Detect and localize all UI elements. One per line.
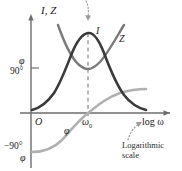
x-axis-label: log ω [142,117,164,127]
x-axis [20,110,170,115]
curve-label-phase: φ [64,126,70,136]
y-tick-label-phi-bottom: φ [20,153,26,163]
resonance-pointer-dotted-arrow [85,1,91,21]
curve-label-current: I [96,26,99,36]
log-scale-annotation: Logarithmic scale [122,141,164,160]
omega-subscript: 0 [89,123,92,129]
y-axis [28,14,33,168]
current-curve [32,33,146,110]
omega-symbol: ω [82,116,89,127]
x-tick-label-omega-zero: ω0 [82,117,92,129]
log-scale-pointer-dotted-arrow [128,122,142,140]
y-axis-label: I, Z [41,5,56,16]
y-tick-label-90deg: 90° [10,67,23,77]
y-tick-label-minus-90deg: −90° [4,142,23,152]
resonance-curves-figure: I, Z φ 90° −90° φ O ω0 log ω I Z φ Logar… [0,0,182,171]
y-tick-label-phi-top: φ [19,56,25,66]
origin-label: O [35,117,42,127]
curve-label-impedance: Z [119,34,125,44]
log-scale-annotation-line2: scale [122,151,164,161]
